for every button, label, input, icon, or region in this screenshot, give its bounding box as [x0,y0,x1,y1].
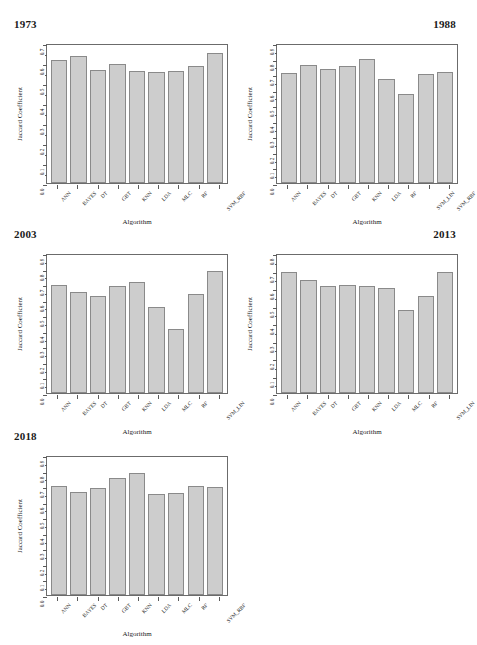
bar-KNN [129,282,145,393]
x-tick [158,395,159,399]
plot-area-2013: 0.00.10.20.30.40.50.60.70.8ANNBAYESDTGBT… [234,228,466,438]
bar-ANN [281,272,297,393]
x-tick-label: LDA [160,400,172,412]
y-tick-label: 0.7 [269,273,275,287]
bar-BAYES [70,492,86,595]
y-tick-label: 0.3 [39,348,45,362]
y-tick-label: 0.4 [39,535,45,549]
y-tick-label: 0.5 [269,107,275,121]
bar-LDA [148,307,164,393]
x-tick [307,185,308,189]
y-tick-label: 0.5 [39,85,45,99]
bar-series [47,45,227,183]
x-tick-label: MLC [181,400,194,413]
x-tick [77,395,78,399]
x-tick [57,395,58,399]
y-tick-label: 0.8 [39,271,45,285]
x-tick [199,597,200,601]
y-tick-label: 0.5 [39,317,45,331]
y-tick-label: 0.4 [269,123,275,137]
y-axis-label: Jaccard Coefficient [16,297,24,351]
bar-SVM_LIN [418,74,434,183]
x-tick [429,185,430,189]
x-tick [138,597,139,601]
plot-area-2003: 0.00.10.20.30.40.50.60.70.80.9ANNBAYESDT… [4,228,236,438]
x-tick-label: GBT [350,400,362,412]
x-tick [449,185,450,189]
x-tick [178,185,179,189]
bar-series [277,45,457,183]
bar-RF [418,296,434,393]
x-tick [328,395,329,399]
x-tick [57,597,58,601]
x-tick-label: RF [409,190,418,199]
y-tick-label: 0.8 [269,255,275,269]
x-tick [118,185,119,189]
x-tick [449,395,450,399]
bar-GBT [109,286,125,393]
x-tick [219,597,220,601]
plot-area-1988: 0.00.10.20.30.40.50.60.70.80.9ANNBAYESDT… [234,18,466,228]
bar-SVM_RBF [437,72,453,183]
plot-area-2018: 0.00.10.20.30.40.50.60.70.80.9ANNBAYESDT… [4,430,236,640]
x-tick [408,185,409,189]
y-tick-label: 0.8 [39,473,45,487]
x-axis-label: Algorithm [122,630,151,638]
x-tick-label: DT [99,602,108,611]
x-tick-label: DT [99,400,108,409]
x-tick-label: SVM_RBF [225,602,247,624]
x-tick-label: LDA [160,602,172,614]
x-tick [368,395,369,399]
y-tick-label: 0.2 [39,145,45,159]
bar-RF [188,294,204,393]
x-tick-label: GBT [350,190,362,202]
x-tick-label: GBT [120,400,132,412]
bar-LDA [148,494,164,595]
y-tick-label: 0.6 [39,65,45,79]
x-tick-label: RF [430,400,439,409]
x-tick [158,597,159,601]
y-tick-label: 0.0 [269,395,275,409]
y-tick-label: 0.0 [39,597,45,611]
x-tick-label: GBT [120,602,132,614]
x-tick-label: ANN [290,190,303,203]
x-tick-label: LDA [390,190,402,202]
bar-GBT [339,66,355,183]
bar-KNN [359,286,375,393]
y-tick-label: 0.1 [269,169,275,183]
x-tick [348,395,349,399]
chart-panel-2018: 2018 0.00.10.20.30.40.50.60.70.80.9ANNBA… [4,430,236,640]
bar-SVM_RBF [207,53,223,183]
x-tick [77,597,78,601]
x-tick-label: RF [200,190,209,199]
y-tick-label: 0.0 [39,395,45,409]
chart-panel-2013: 2013 0.00.10.20.30.40.50.60.70.8ANNBAYES… [234,228,466,438]
y-tick-label: 0.4 [39,333,45,347]
x-tick [287,185,288,189]
y-tick-label: 0.0 [39,185,45,199]
x-tick-label: BAYES [81,400,97,416]
y-tick-label: 0.2 [39,364,45,378]
y-tick-label: 0.1 [269,378,275,392]
x-tick-label: ANN [290,400,303,413]
bar-MLC [168,71,184,183]
x-axis-label: Algorithm [352,218,381,226]
x-tick [178,597,179,601]
x-tick [178,395,179,399]
y-tick-label: 0.3 [39,550,45,564]
bar-KNN [129,71,145,183]
y-tick-label: 0.6 [39,504,45,518]
y-tick-label: 0.6 [269,92,275,106]
bar-MLC [168,493,184,595]
bar-RF [188,486,204,596]
chart-panel-2003: 2003 0.00.10.20.30.40.50.60.70.80.9ANNBA… [4,228,236,438]
x-tick [199,395,200,399]
bar-LDA [378,79,394,183]
y-tick-label: 0.7 [39,488,45,502]
bar-GBT [109,478,125,595]
axes-box-2018: 0.00.10.20.30.40.50.60.70.80.9ANNBAYESDT… [46,456,228,596]
bar-DT [90,70,106,183]
y-tick-label: 0.2 [269,154,275,168]
x-tick-label: BAYES [81,602,97,618]
